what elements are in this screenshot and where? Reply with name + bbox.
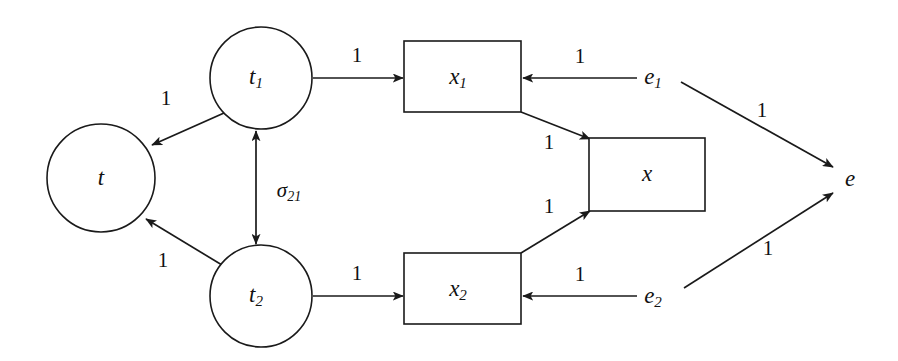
edge-e2-to-x2: 1 [523, 262, 637, 296]
edge-label-t2-to-t: 1 [158, 248, 169, 272]
diagram-canvas: 1 1 σ21 1 1 [0, 0, 898, 361]
edge-e1-to-x1: 1 [523, 44, 637, 78]
node-label-e1: e1 [644, 64, 662, 91]
edge-t2-to-x2: 1 [313, 261, 403, 296]
node-label-e1-base: e [644, 64, 654, 89]
node-t[interactable]: t [47, 124, 155, 232]
edge-label-e1-to-x1: 1 [575, 44, 586, 68]
node-label-e2-subscript: 2 [654, 294, 662, 310]
node-label-t: t [98, 165, 105, 190]
node-label-t1-subscript: 1 [255, 75, 263, 91]
node-label-e: e [845, 166, 855, 191]
node-x1[interactable]: x1 [404, 41, 521, 112]
edge-label-x2-to-x: 1 [544, 194, 555, 218]
edge-label-sigma-subscript: 21 [287, 189, 301, 204]
edge-line-x1-to-x [521, 112, 590, 139]
node-label-x1-base: x [448, 64, 460, 89]
node-label-e2: e2 [644, 283, 662, 310]
node-t1[interactable]: t1 [210, 27, 312, 129]
node-e2[interactable]: e2 [644, 283, 662, 310]
edge-label-x1-to-x: 1 [544, 130, 555, 154]
node-label-x2-subscript: 2 [459, 287, 467, 303]
edge-label-t1-to-t: 1 [161, 86, 172, 110]
node-label-e2-base: e [644, 283, 654, 308]
edge-line-x2-to-x [521, 211, 590, 253]
node-e1[interactable]: e1 [644, 64, 662, 91]
edge-label-t1-to-x1: 1 [352, 43, 363, 67]
edge-line-e2-to-e [684, 193, 833, 288]
node-label-e1-subscript: 1 [654, 75, 662, 91]
node-label-x: x [641, 161, 653, 186]
edge-e2-to-e: 1 [684, 193, 833, 288]
node-layer: t t1 t2 x1 x [47, 27, 855, 347]
node-label-x2-base: x [448, 276, 460, 301]
node-x2[interactable]: x2 [404, 253, 521, 324]
node-label-x1-subscript: 1 [459, 75, 467, 91]
edge-t2-to-t1: σ21 [256, 131, 301, 244]
edge-t1-to-x1: 1 [313, 43, 403, 78]
node-t2[interactable]: t2 [210, 245, 312, 347]
node-e[interactable]: e [845, 166, 855, 191]
edge-label-t2-to-x2: 1 [352, 261, 363, 285]
edge-label-e2-to-e: 1 [763, 236, 774, 260]
edge-label-e2-to-x2: 1 [575, 262, 586, 286]
node-label-t2-subscript: 2 [255, 293, 263, 309]
edge-label-t2-to-t1: σ21 [277, 178, 301, 204]
diagram-svg: 1 1 σ21 1 1 [0, 0, 898, 361]
edge-x1-to-x: 1 [521, 112, 590, 154]
edge-x2-to-x: 1 [521, 194, 590, 253]
edge-t2-to-t: 1 [146, 219, 222, 272]
node-x[interactable]: x [589, 138, 705, 211]
edge-line-t1-to-t [152, 113, 224, 145]
edge-label-e1-to-e: 1 [757, 98, 768, 122]
